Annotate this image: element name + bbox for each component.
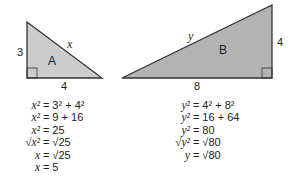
equation-lhs: y² [144,111,190,123]
equation-row: x = √25 [0,149,84,161]
equation-row: y = √80 [144,149,239,161]
equations-b: y² = 4² + 8² y² = 16 + 64 y² = 80 √y² = … [144,99,239,161]
equation-lhs: y² [144,99,190,111]
equation-rhs: = √80 [193,136,221,148]
equation-rhs: = 9 + 16 [43,111,83,123]
equation-rhs: = √25 [43,149,71,161]
triangle-b-hypotenuse-label: y [188,30,193,42]
triangle-a [27,22,102,78]
equation-row: √y² = √80 [144,136,239,148]
triangle-a-name-label: A [48,55,56,67]
equation-rhs: = 4² + 8² [193,99,235,111]
triangle-b-leg-horizontal-label: 8 [194,81,200,92]
equation-row: x² = 25 [0,124,84,136]
triangle-b-name-label: B [219,44,227,56]
equation-rhs: = 80 [193,124,215,136]
triangle-a-leg-horizontal-label: 4 [61,81,67,92]
equation-lhs: √y² [144,136,190,148]
equation-lhs: x² [0,111,40,123]
equation-row: y² = 16 + 64 [144,111,239,123]
equation-row: x² = 3² + 4² [0,99,84,111]
triangle-b [122,5,272,78]
equation-rhs: = 5 [43,161,59,173]
equation-rhs: = √25 [43,136,71,148]
equations-a: x² = 3² + 4² x² = 9 + 16 x² = 25 √x² = √… [0,99,84,173]
equation-lhs: x [0,149,40,161]
triangle-a-leg-vertical-label: 3 [17,47,23,58]
equation-row: x² = 9 + 16 [0,111,84,123]
equation-lhs: x [0,161,40,173]
equation-lhs: y [144,149,190,161]
equation-rhs: = 16 + 64 [193,111,240,123]
equation-rhs: = 25 [43,124,65,136]
equation-lhs: y² [144,124,190,136]
equation-lhs: √x² [0,136,40,148]
triangle-b-leg-vertical-label: 4 [277,37,283,48]
equation-row: x = 5 [0,161,84,173]
equation-lhs: x² [0,99,40,111]
equation-row: y² = 4² + 8² [144,99,239,111]
equation-lhs: x² [0,124,40,136]
equation-rhs: = 3² + 4² [43,99,85,111]
equation-rhs: = √80 [193,149,221,161]
equation-row: y² = 80 [144,124,239,136]
triangle-a-hypotenuse-label: x [67,38,72,50]
equation-row: √x² = √25 [0,136,84,148]
